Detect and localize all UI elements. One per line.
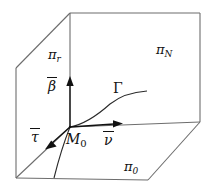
point-M0-marker	[69, 126, 71, 128]
plane-label-pi-0: π0	[124, 160, 138, 176]
diagram-canvas	[0, 0, 211, 190]
overbar-beta	[47, 77, 57, 78]
edge-bottom-front-right	[148, 122, 200, 180]
curve-label-gamma: Γ	[113, 81, 123, 95]
plane-label-pi-r: πr	[48, 48, 61, 64]
plane-symbol-pi-r: π	[48, 47, 57, 62]
overbar-nu	[103, 131, 114, 132]
plane-symbol-pi-0: π	[124, 159, 133, 174]
plane-subscript-pi-r: r	[57, 54, 61, 64]
plane-subscript-pi-0: 0	[133, 166, 139, 176]
curve-symbol-gamma: Γ	[113, 80, 123, 96]
plane-symbol-pi-N: π	[156, 42, 165, 57]
plane-subscript-pi-N: N	[165, 49, 173, 59]
point-subscript-0: 0	[80, 138, 86, 149]
box-wireframe	[16, 13, 200, 180]
edge-top-oblique-left	[16, 13, 70, 68]
vector-label-beta: β	[48, 79, 56, 93]
plane-label-pi-N: πN	[156, 43, 172, 59]
vector-symbol-tau: τ	[31, 129, 39, 145]
point-symbol-M: M	[66, 131, 80, 147]
curve-gamma-upper	[70, 91, 147, 127]
vector-label-tau: τ	[31, 130, 39, 144]
vector-symbol-beta: β	[48, 78, 56, 94]
vector-label-nu: ν	[104, 133, 113, 147]
figure-container: πr πN π0 β ν τ M0 Γ	[0, 0, 211, 190]
overbar-tau	[30, 128, 40, 129]
vector-beta-arrowhead	[66, 76, 73, 86]
edge-bottom-front	[16, 178, 148, 180]
vector-symbol-nu: ν	[104, 132, 113, 148]
vector-nu-arrowhead	[113, 120, 123, 127]
point-label-M0: M0	[66, 132, 87, 149]
